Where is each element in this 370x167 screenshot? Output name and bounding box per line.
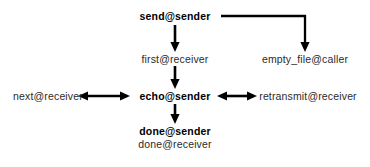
edge-echo-to-done	[170, 104, 179, 124]
edge-echo-to-next	[78, 91, 130, 100]
edge-send-to-empty-file	[221, 16, 310, 52]
node-first-receiver[interactable]: first@receiver	[141, 53, 208, 65]
node-empty-file-caller[interactable]: empty_file@caller	[262, 53, 348, 65]
node-next-receiver[interactable]: next@receiver	[13, 90, 83, 102]
node-send-sender[interactable]: send@sender	[140, 10, 211, 22]
node-retransmit-receiver[interactable]: retransmit@receiver	[259, 90, 357, 102]
node-done-receiver[interactable]: done@receiver	[138, 138, 211, 151]
node-done-sender[interactable]: done@sender	[138, 125, 211, 138]
edge-first-to-echo	[170, 66, 179, 89]
diagram-canvas: send@sender first@receiver empty_file@ca…	[0, 0, 370, 167]
edge-send-to-first	[170, 25, 179, 52]
edge-echo-to-retransmit	[217, 91, 257, 100]
node-echo-sender[interactable]: echo@sender	[140, 90, 211, 102]
node-done-group[interactable]: done@sender done@receiver	[138, 125, 211, 151]
